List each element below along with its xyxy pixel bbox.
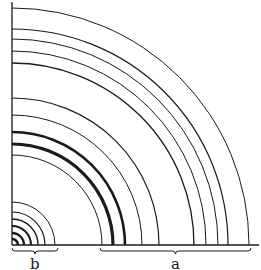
arc bbox=[12, 144, 113, 245]
arc bbox=[12, 8, 249, 245]
arc bbox=[12, 63, 194, 245]
brace-b bbox=[12, 248, 58, 254]
arc bbox=[12, 98, 159, 245]
ring-diagram bbox=[0, 0, 261, 270]
arc-group-a bbox=[12, 8, 249, 245]
arc bbox=[12, 132, 125, 245]
arc bbox=[12, 39, 218, 245]
arc-group-b bbox=[12, 202, 55, 245]
label-b: b bbox=[30, 257, 40, 270]
arc bbox=[12, 239, 18, 245]
label-a: a bbox=[171, 257, 180, 270]
arc bbox=[12, 202, 55, 245]
arc bbox=[12, 226, 31, 245]
brace-a bbox=[100, 248, 251, 254]
